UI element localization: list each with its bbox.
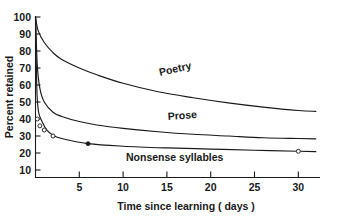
y-tick-label-10: 10 — [19, 164, 31, 176]
series-label-nonsense-syllables: Nonsense syllables — [126, 151, 224, 163]
data-point-marker — [51, 134, 55, 138]
data-point-marker — [42, 128, 46, 132]
curve-nonsense-syllables — [36, 17, 316, 152]
series-label-prose: Prose — [167, 108, 197, 122]
data-point-marker — [35, 117, 39, 121]
x-tick-label-20: 20 — [205, 181, 217, 193]
y-tick-label-50: 50 — [19, 96, 31, 108]
y-axis-title: Percent retained — [3, 56, 15, 138]
y-tick-label-20: 20 — [19, 147, 31, 159]
x-tick-label-15: 15 — [161, 181, 173, 193]
y-tick-label-80: 80 — [19, 45, 31, 57]
x-tick-label-10: 10 — [117, 181, 129, 193]
data-point-marker — [38, 124, 42, 128]
chart-page: 100 90 80 70 60 50 40 30 20 10 5 10 15 2… — [0, 0, 344, 224]
y-tick-label-100: 100 — [13, 11, 31, 23]
data-point-marker — [296, 149, 300, 153]
y-tick-label-40: 40 — [19, 113, 31, 125]
y-tick-label-30: 30 — [19, 130, 31, 142]
series-curves-group — [35, 17, 316, 153]
y-tick-labels-group: 100 90 80 70 60 50 40 30 20 10 — [13, 11, 31, 176]
x-axis-title: Time since learning ( days ) — [117, 200, 255, 212]
y-tick-label-60: 60 — [19, 79, 31, 91]
y-tick-label-90: 90 — [19, 28, 31, 40]
forgetting-curve-chart: 100 90 80 70 60 50 40 30 20 10 5 10 15 2… — [0, 0, 344, 224]
y-tick-label-70: 70 — [19, 62, 31, 74]
data-point-marker — [86, 142, 90, 146]
x-tick-label-5: 5 — [76, 181, 82, 193]
x-tick-label-25: 25 — [249, 181, 261, 193]
x-ticks-group — [79, 172, 298, 178]
series-label-poetry: Poetry — [158, 59, 193, 78]
x-tick-labels-group: 5 10 15 20 25 30 — [76, 181, 304, 193]
x-tick-label-30: 30 — [292, 181, 304, 193]
